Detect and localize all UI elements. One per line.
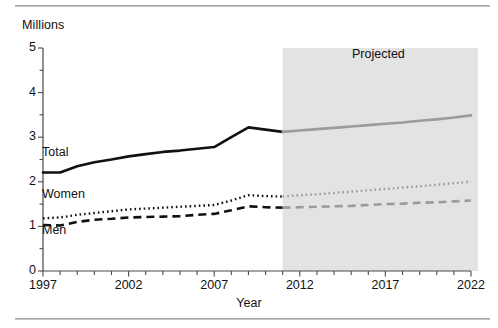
x-tick-label-2022: 2022 xyxy=(441,278,498,292)
line-chart-canvas xyxy=(0,0,498,328)
chart-root: Millions Projected Total Women Men Year … xyxy=(0,0,498,328)
y-tick-label-3: 3 xyxy=(14,130,36,142)
x-tick-label-2002: 2002 xyxy=(99,278,159,292)
series-label-total: Total xyxy=(42,145,68,159)
x-tick-label-2017: 2017 xyxy=(355,278,415,292)
projected-shaded-region xyxy=(283,48,478,271)
y-tick-label-1: 1 xyxy=(14,219,36,231)
x-axis-title: Year xyxy=(0,296,498,310)
projected-annotation-label: Projected xyxy=(352,47,405,61)
x-tick-label-2007: 2007 xyxy=(184,278,244,292)
x-axis-ticks xyxy=(43,271,471,277)
series-label-women: Women xyxy=(42,187,85,201)
y-axis-ticks xyxy=(38,48,43,271)
series-label-men: Men xyxy=(42,223,66,237)
x-tick-label-2012: 2012 xyxy=(270,278,330,292)
y-tick-label-2: 2 xyxy=(14,175,36,187)
x-tick-label-1997: 1997 xyxy=(13,278,73,292)
series-line-men-historical xyxy=(43,206,283,225)
y-tick-label-4: 4 xyxy=(14,86,36,98)
y-tick-label-0: 0 xyxy=(14,264,36,276)
series-line-total-historical xyxy=(43,127,283,172)
y-tick-label-5: 5 xyxy=(14,41,36,53)
